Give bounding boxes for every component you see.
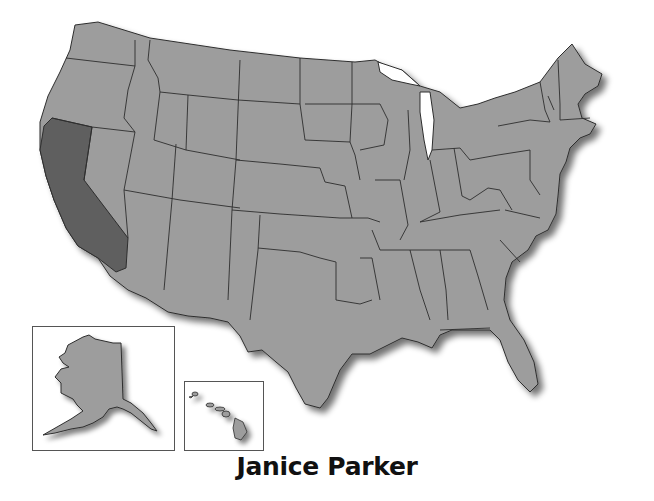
alaska-shape xyxy=(33,327,173,449)
author-caption: Janice Parker xyxy=(0,452,654,481)
alaska-inset xyxy=(32,326,175,451)
island-niihau xyxy=(189,396,193,398)
hawaii-inset xyxy=(184,381,264,451)
island-hawaii xyxy=(233,418,247,440)
island-oahu xyxy=(206,403,214,407)
island-kauai xyxy=(192,392,198,396)
island-molokai xyxy=(215,407,225,411)
hawaii-shape xyxy=(185,382,263,450)
island-maui xyxy=(222,411,230,417)
